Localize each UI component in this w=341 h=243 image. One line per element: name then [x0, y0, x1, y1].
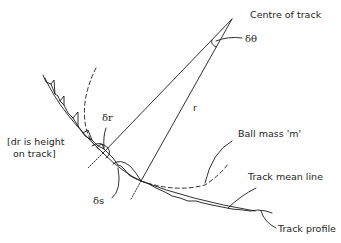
delta-theta-arc: [212, 40, 217, 47]
delta-s-leader: [112, 168, 119, 198]
label-delta-r: δr: [102, 112, 113, 123]
radial-extension-left: [88, 153, 103, 168]
radial-line-left: [103, 19, 232, 153]
ball-mass-leader: [205, 141, 232, 183]
label-centre-of-track: Centre of track: [250, 9, 321, 20]
ball-path-lower: [141, 164, 228, 188]
ball-path-upper: [84, 68, 100, 150]
label-delta-theta: δθ: [245, 33, 257, 44]
track-mean-line: [45, 78, 255, 211]
label-ball-mass: Ball mass 'm': [238, 128, 301, 139]
mean-line-leader: [228, 188, 256, 208]
track-profile: [43, 75, 272, 213]
profile-leader: [261, 211, 276, 228]
label-delta-s: δs: [93, 195, 104, 206]
label-track-profile: Track profile: [278, 223, 336, 234]
track-geometry-diagram: [0, 0, 341, 243]
label-track-mean-line: Track mean line: [248, 171, 323, 182]
radial-extension-right: [131, 181, 141, 199]
radial-line-right: [141, 19, 232, 181]
label-radius: r: [193, 102, 197, 113]
label-note-line1: [dr is height: [7, 136, 65, 147]
label-note-line2: on track]: [13, 148, 56, 159]
